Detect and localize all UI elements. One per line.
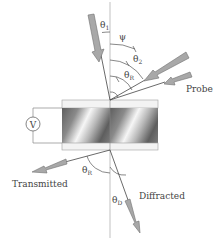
- voltmeter-circuit: V: [26, 108, 62, 143]
- probe-label: Probe: [186, 84, 213, 94]
- voltmeter-label: V: [29, 120, 37, 130]
- sample: [62, 100, 158, 150]
- holographic-grating-diagram: V: [0, 0, 221, 245]
- theta1-label: θ1: [100, 20, 109, 31]
- diffracted-label: Diffracted: [139, 191, 185, 201]
- theta2-label: θ2: [133, 54, 142, 65]
- diffracted-beam: [110, 150, 140, 233]
- thetaR-bottom-label: θR: [82, 165, 92, 176]
- thetaR-top-label: θR: [124, 70, 134, 81]
- transmitted-label: Transmitted: [12, 179, 68, 189]
- transmitted-beam: [32, 150, 110, 173]
- incident-beam-2: [110, 52, 189, 100]
- psi-label: ψ: [119, 32, 126, 42]
- thetaD-label: θD: [112, 195, 122, 206]
